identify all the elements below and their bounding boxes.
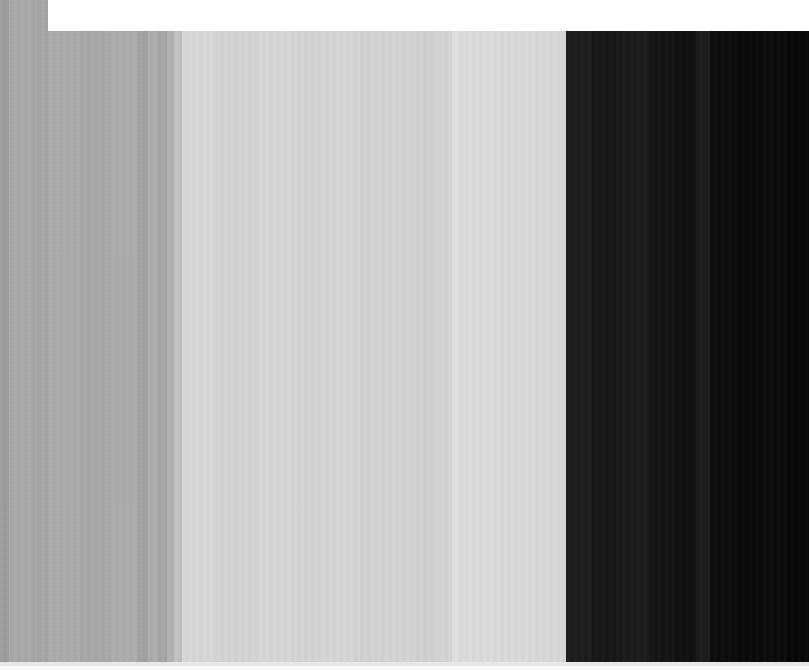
band-dark-panel-c bbox=[622, 0, 650, 670]
band-light-panel-h bbox=[414, 0, 438, 670]
screenshot-canvas bbox=[0, 0, 809, 670]
band-dark-panel-b bbox=[592, 0, 622, 670]
band-dark-panel-e bbox=[674, 0, 696, 670]
band-dark-panel-h bbox=[736, 0, 762, 670]
band-bright-divider-line bbox=[452, 0, 459, 670]
band-dark-panel-d bbox=[650, 0, 674, 670]
vertical-band-field bbox=[0, 0, 809, 670]
band-left-mid-grey-b bbox=[33, 0, 48, 670]
band-light-panel-a bbox=[182, 0, 216, 670]
band-left-mid-grey-e bbox=[110, 0, 138, 670]
band-light-panel-c bbox=[256, 0, 292, 670]
band-light-panel-i bbox=[438, 0, 452, 670]
band-dark-panel-a bbox=[566, 0, 592, 670]
band-left-mid-grey-f bbox=[138, 0, 148, 670]
band-left-mid-grey-a bbox=[9, 0, 33, 670]
band-light-panel-f bbox=[354, 0, 384, 670]
band-light-panel-b bbox=[216, 0, 256, 670]
band-transition-to-light bbox=[174, 0, 182, 670]
band-dark-panel-g bbox=[710, 0, 736, 670]
top-white-panel bbox=[48, 0, 809, 31]
band-light-panel-g bbox=[384, 0, 414, 670]
band-dark-panel-j bbox=[786, 0, 809, 670]
band-left-edge-shadow bbox=[0, 0, 9, 670]
band-light-panel-e bbox=[320, 0, 354, 670]
bottom-white-strip bbox=[0, 666, 809, 670]
band-left-mid-grey-h bbox=[158, 0, 167, 670]
band-left-mid-grey-c bbox=[48, 0, 80, 670]
band-pale-panel-b bbox=[497, 0, 535, 670]
band-left-mid-grey-g bbox=[148, 0, 158, 670]
band-pale-panel-c bbox=[535, 0, 566, 670]
band-dark-panel-f bbox=[696, 0, 710, 670]
band-light-panel-d bbox=[292, 0, 320, 670]
band-left-mid-grey-i bbox=[167, 0, 174, 670]
band-dark-panel-i bbox=[762, 0, 786, 670]
band-left-mid-grey-d bbox=[80, 0, 110, 670]
band-pale-panel-a bbox=[459, 0, 497, 670]
